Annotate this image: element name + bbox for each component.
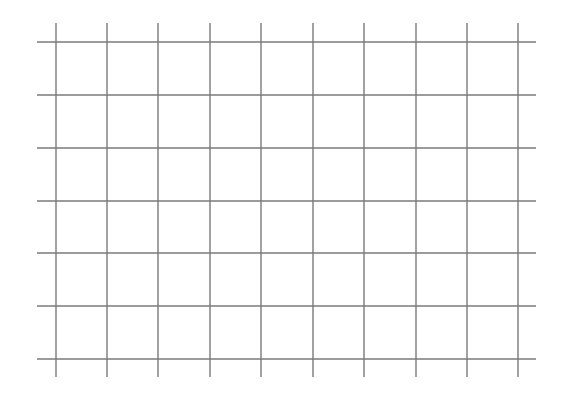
vertical-grid-lines — [56, 23, 518, 377]
grid-paper — [0, 0, 571, 404]
horizontal-grid-lines — [37, 42, 536, 359]
